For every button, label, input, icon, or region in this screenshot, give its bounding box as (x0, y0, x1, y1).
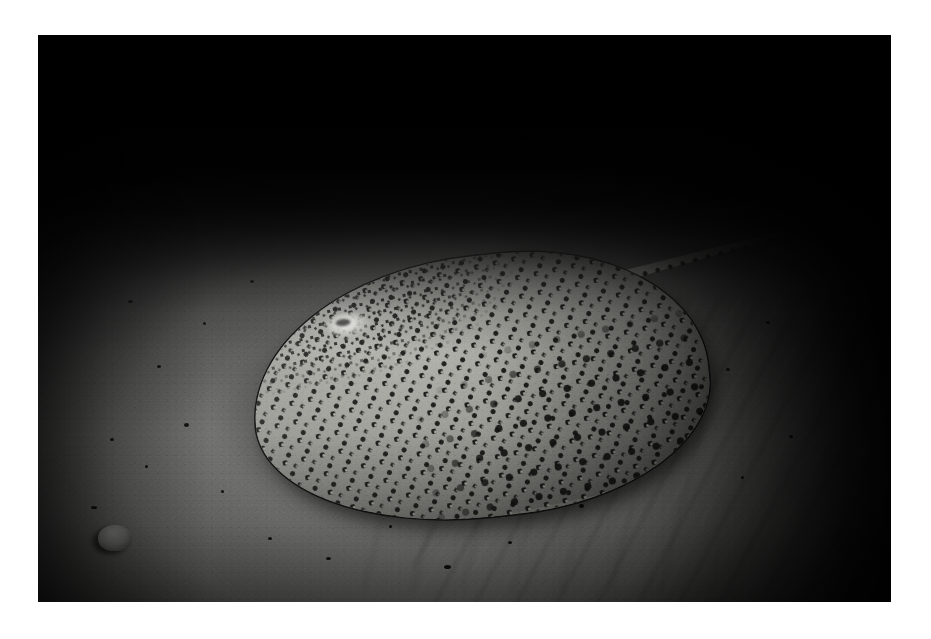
photograph (38, 35, 891, 602)
vignette (38, 35, 891, 602)
photo-page (0, 0, 931, 639)
